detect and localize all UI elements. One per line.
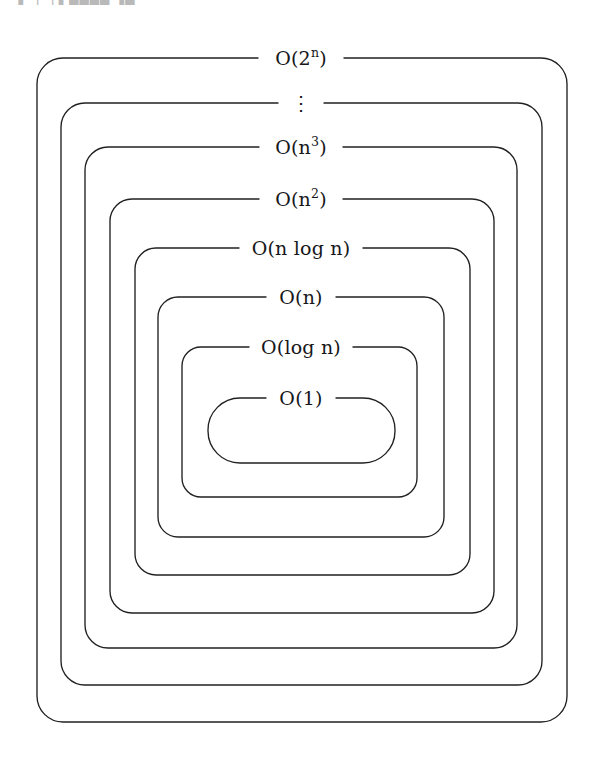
nesting-box-o-n <box>158 297 444 537</box>
level-label-o-2-pow-n: O(2n) <box>268 49 334 68</box>
level-label-o-n-squared-exponent: 2 <box>311 186 319 201</box>
level-label-o-n-cubed: O(n3) <box>268 138 334 157</box>
level-label-o-n: O(n) <box>272 288 329 307</box>
level-label-o-2-pow-n-exponent: n <box>311 45 319 60</box>
level-label-o-n-squared: O(n2) <box>268 190 334 209</box>
level-label-ellipsis: ⋮ <box>279 93 323 113</box>
nesting-boxes-svg <box>0 0 600 768</box>
level-label-o-n-squared-base: O(n <box>275 188 311 210</box>
level-label-o-n-squared-tail: ) <box>319 188 327 210</box>
level-label-o-n-log-n: O(n log n) <box>245 239 358 258</box>
level-label-o-log-n: O(log n) <box>254 338 348 357</box>
level-label-o-1: O(1) <box>272 389 329 408</box>
level-label-o-n-cubed-tail: ) <box>319 136 327 158</box>
level-label-o-n-cubed-base: O(n <box>275 136 311 158</box>
level-label-o-2-pow-n-base: O(2 <box>275 47 311 69</box>
nesting-box-o-log-n <box>182 347 417 497</box>
level-label-o-n-cubed-exponent: 3 <box>311 134 319 149</box>
complexity-nesting-diagram: ▐ ▕ ▕▐ ▄▄▄▄ ▐▄ O(2n) ⋮ O(n3) O(n2) O(n l… <box>0 0 600 768</box>
level-label-o-2-pow-n-tail: ) <box>319 47 327 69</box>
